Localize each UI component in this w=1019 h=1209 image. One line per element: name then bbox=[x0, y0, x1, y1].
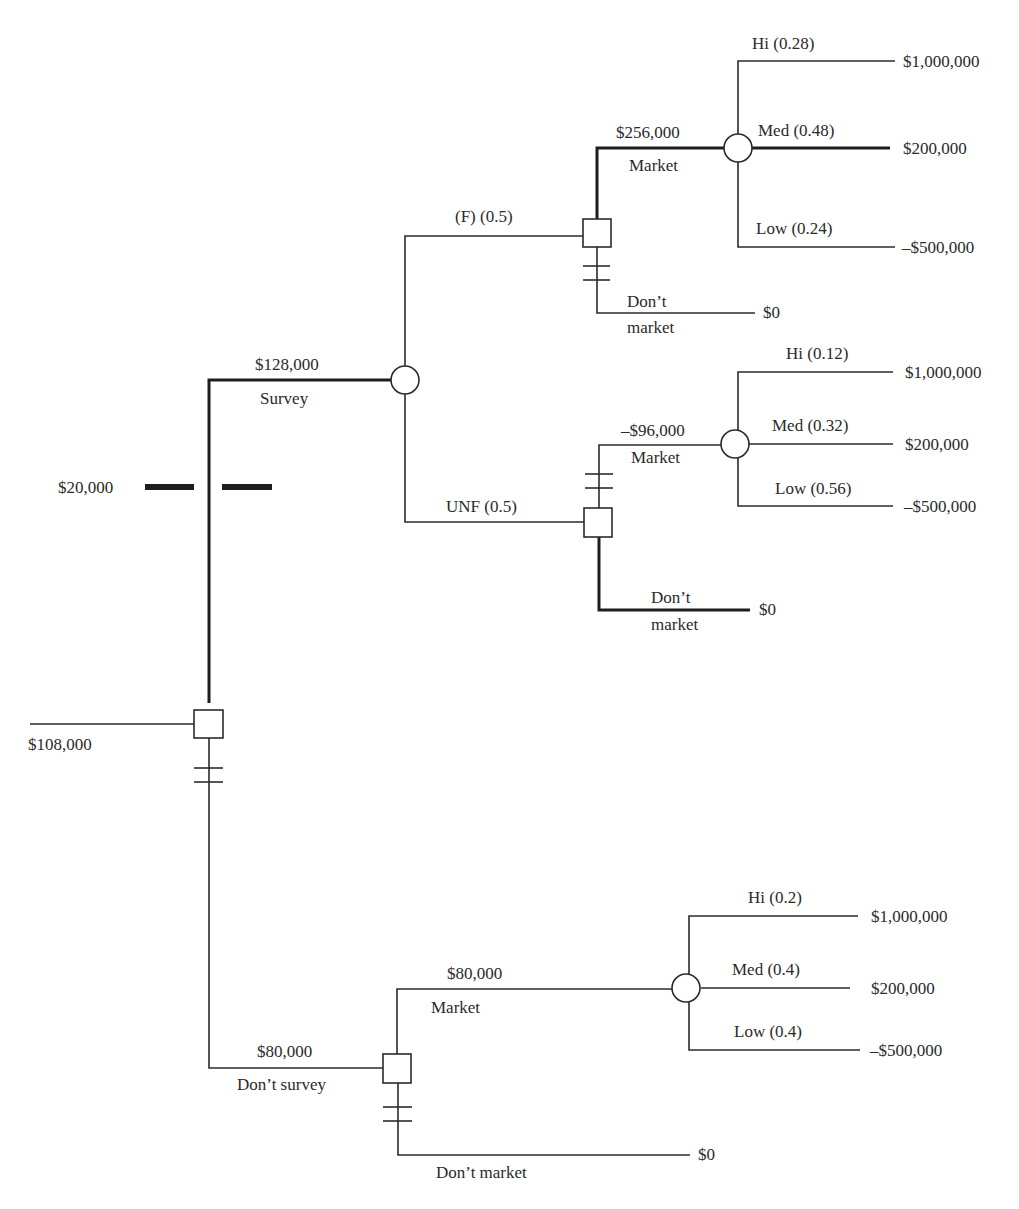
fav-hi-label: Hi (0.28) bbox=[752, 34, 814, 53]
unfavorable-subtree: –$96,000 Market Don’t market $0 Hi (0.12… bbox=[584, 344, 982, 634]
chance-node-ds-market[interactable] bbox=[672, 974, 700, 1002]
survey-label: Survey bbox=[260, 389, 309, 408]
unf-market-value: –$96,000 bbox=[620, 421, 685, 440]
ds-med-payoff: $200,000 bbox=[871, 979, 935, 998]
fav-dont-market-line bbox=[597, 247, 755, 313]
ds-low-payoff: –$500,000 bbox=[869, 1041, 942, 1060]
ds-hi-payoff: $1,000,000 bbox=[871, 907, 948, 926]
fav-low-payoff: –$500,000 bbox=[901, 238, 974, 257]
decision-node-dont-survey[interactable] bbox=[383, 1054, 411, 1083]
ds-low-label: Low (0.4) bbox=[734, 1022, 802, 1041]
favorable-line bbox=[405, 236, 583, 366]
survey-value: $128,000 bbox=[255, 355, 319, 374]
decision-node-unfavorable[interactable] bbox=[584, 508, 612, 537]
unf-low-payoff: –$500,000 bbox=[903, 497, 976, 516]
root-branch: $108,000 bbox=[28, 710, 223, 754]
ds-hi-label: Hi (0.2) bbox=[748, 888, 802, 907]
dont-survey-value: $80,000 bbox=[257, 1042, 312, 1061]
unf-hi-label: Hi (0.12) bbox=[786, 344, 848, 363]
fav-dont-market-label-2: market bbox=[627, 318, 674, 337]
fav-low-label: Low (0.24) bbox=[756, 219, 832, 238]
toll-cost-label: $20,000 bbox=[58, 478, 113, 497]
unf-med-payoff: $200,000 bbox=[905, 435, 969, 454]
ds-market-label: Market bbox=[431, 998, 480, 1017]
toll-bar-left bbox=[145, 484, 194, 490]
unf-dont-market-payoff: $0 bbox=[759, 600, 776, 619]
ds-dont-market-line bbox=[398, 1083, 690, 1155]
decision-node-root[interactable] bbox=[194, 710, 223, 738]
dont-survey-branch: $80,000 Don’t survey $80,000 Market Don’… bbox=[194, 738, 948, 1182]
unf-hi-payoff: $1,000,000 bbox=[905, 363, 982, 382]
dont-survey-label: Don’t survey bbox=[237, 1075, 326, 1094]
root-value: $108,000 bbox=[28, 735, 92, 754]
ds-market-value: $80,000 bbox=[447, 964, 502, 983]
toll-bar-right bbox=[222, 484, 272, 490]
decision-node-favorable[interactable] bbox=[583, 219, 611, 247]
fav-market-label: Market bbox=[629, 156, 678, 175]
survey-line bbox=[209, 380, 391, 703]
survey-outcomes: (F) (0.5) UNF (0.5) bbox=[405, 207, 584, 522]
fav-market-value: $256,000 bbox=[616, 123, 680, 142]
fav-med-label: Med (0.48) bbox=[758, 121, 834, 140]
decision-tree: $108,000 $128,000 Survey $20,000 (F) (0.… bbox=[0, 0, 1019, 1209]
unf-low-label: Low (0.56) bbox=[775, 479, 851, 498]
favorable-subtree: $256,000 Market Don’t market $0 Hi (0.28… bbox=[583, 34, 980, 337]
survey-branch: $128,000 Survey $20,000 bbox=[58, 355, 419, 703]
fav-med-payoff: $200,000 bbox=[903, 139, 967, 158]
ds-med-label: Med (0.4) bbox=[732, 960, 800, 979]
favorable-label: (F) (0.5) bbox=[455, 207, 513, 226]
fav-dont-market-payoff: $0 bbox=[763, 303, 780, 322]
ds-dont-market-payoff: $0 bbox=[698, 1145, 715, 1164]
fav-dont-market-label-1: Don’t bbox=[627, 292, 667, 311]
dont-survey-line bbox=[209, 738, 383, 1068]
unf-med-label: Med (0.32) bbox=[772, 416, 848, 435]
ds-dont-market-label: Don’t market bbox=[436, 1163, 527, 1182]
fav-hi-payoff: $1,000,000 bbox=[903, 52, 980, 71]
unfavorable-label: UNF (0.5) bbox=[446, 497, 517, 516]
chance-node-unf-market[interactable] bbox=[721, 430, 749, 458]
chance-node-fav-market[interactable] bbox=[724, 134, 752, 162]
unf-market-label: Market bbox=[631, 448, 680, 467]
unf-dont-market-label-1: Don’t bbox=[651, 588, 691, 607]
chance-node-survey[interactable] bbox=[391, 366, 419, 394]
unf-dont-market-label-2: market bbox=[651, 615, 698, 634]
